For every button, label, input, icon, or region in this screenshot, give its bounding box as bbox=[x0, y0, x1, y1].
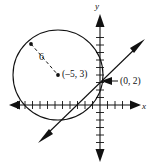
x-axis-right-arrowhead bbox=[130, 101, 141, 110]
x-axis-label: x bbox=[142, 102, 146, 111]
coordinate-plane-figure: y x (–5, 3) (0, 2) 6 bbox=[0, 0, 156, 167]
y-axis-label: y bbox=[95, 2, 99, 11]
y-axis bbox=[96, 14, 105, 162]
x-axis-left-arrowhead bbox=[9, 101, 20, 110]
radius-length-label: 6 bbox=[39, 52, 44, 62]
circle-edge-point-dot bbox=[29, 42, 33, 46]
circle-center-dot bbox=[56, 73, 60, 77]
secant-line bbox=[38, 39, 145, 143]
x-axis bbox=[9, 101, 141, 110]
y-axis-bottom-arrowhead bbox=[96, 149, 105, 162]
intercept-callout-arrow bbox=[101, 77, 118, 85]
radius-dashed-segment bbox=[31, 44, 58, 75]
y-axis-top-arrowhead bbox=[96, 14, 105, 27]
secant-line-segment bbox=[45, 45, 139, 136]
y-intercept-label: (0, 2) bbox=[120, 77, 141, 87]
circle-center-label: (–5, 3) bbox=[62, 70, 87, 80]
